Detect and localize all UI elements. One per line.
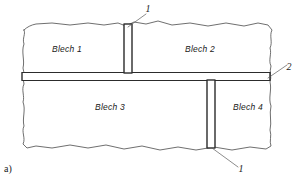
subfigure-label: a) — [4, 163, 12, 175]
callout-label-right: 2 — [287, 61, 292, 72]
diagram-canvas: Blech 1 Blech 2 Blech 3 Blech 4 1 2 1 a) — [0, 0, 304, 183]
plate-label-blech-4: Blech 4 — [233, 102, 263, 112]
plate-label-blech-2: Blech 2 — [185, 44, 215, 54]
callout-label-bottom: 1 — [239, 163, 244, 174]
welded-plate-diagram: Blech 1 Blech 2 Blech 3 Blech 4 1 2 1 a) — [0, 0, 304, 183]
plate-outline — [23, 21, 272, 150]
weld-seam-vertical-upper — [124, 24, 132, 73]
weld-seam-horizontal — [22, 73, 270, 81]
plate-label-blech-3: Blech 3 — [95, 102, 125, 112]
weld-seam-vertical-lower — [207, 80, 215, 148]
plate-label-blech-1: Blech 1 — [52, 44, 82, 54]
callout-label-top: 1 — [146, 3, 151, 14]
plate-outline-group — [23, 21, 272, 150]
leader-line-callout-bottom — [212, 148, 238, 167]
